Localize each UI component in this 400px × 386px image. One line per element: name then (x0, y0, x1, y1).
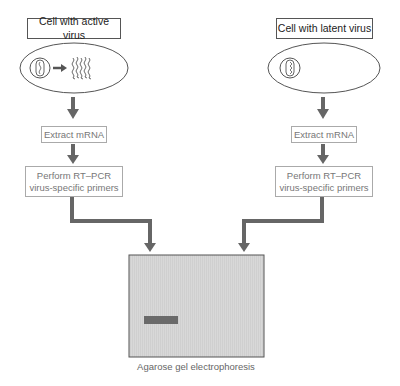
left-cell (20, 43, 128, 93)
connector-right-arrow-icon (238, 197, 322, 252)
right-cell-title: Cell with latent virus (276, 18, 373, 39)
right-rt-pcr-line2: virus-specific primers (279, 182, 368, 194)
left-rt-pcr-line2: virus-specific primers (29, 182, 118, 194)
nucleus-icon (30, 58, 50, 78)
dna-band (144, 316, 178, 324)
right-rt-pcr-box: Perform RT–PCR virus-specific primers (275, 166, 373, 197)
agarose-gel (129, 255, 264, 357)
right-extract-mrna-box: Extract mRNA (291, 126, 357, 143)
gel-caption: Agarose gel electrophoresis (120, 361, 272, 372)
connector-left-arrow-icon (72, 197, 156, 252)
left-rt-pcr-box: Perform RT–PCR virus-specific primers (25, 166, 123, 197)
left-rt-pcr-line1: Perform RT–PCR (37, 170, 111, 182)
right-rt-pcr-line1: Perform RT–PCR (287, 170, 361, 182)
nucleus-latent-icon (280, 58, 300, 78)
left-extract-mrna-box: Extract mRNA (41, 126, 107, 143)
left-cell-title: Cell with active virus (27, 18, 121, 39)
right-cell (268, 43, 380, 93)
